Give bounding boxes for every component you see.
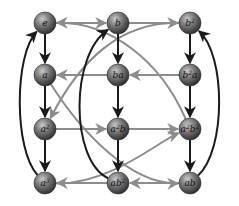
edges-generator-a	[20, 30, 219, 179]
node-b2	[179, 12, 201, 34]
node-a2	[34, 118, 56, 140]
edge-ab2-to-b	[80, 30, 109, 179]
edge-a3-to-e	[20, 32, 38, 175]
edge-ab-to-b2	[198, 31, 219, 176]
node-e	[34, 12, 56, 34]
node-b2a	[179, 64, 201, 86]
node-ab	[179, 172, 201, 194]
node-a2b2	[179, 118, 201, 140]
node-ba	[107, 64, 129, 86]
node-b	[107, 12, 129, 34]
node-a	[34, 64, 56, 86]
node-ab2	[107, 172, 129, 194]
cayley-graph	[0, 0, 239, 206]
node-a2b	[107, 118, 129, 140]
node-a3	[34, 172, 56, 194]
